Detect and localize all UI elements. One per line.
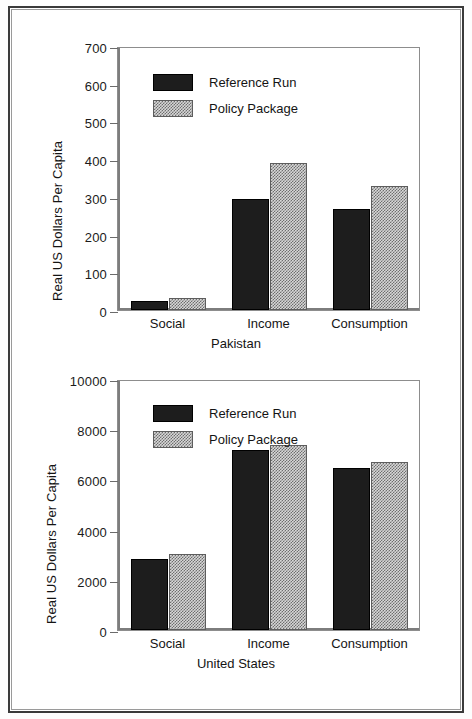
x-label-pakistan-social: Social — [150, 316, 185, 331]
x-axis-category-labels-pakistan: SocialIncomeConsumption — [117, 316, 420, 336]
bar-united-states-income-policy-package — [270, 445, 307, 630]
bar-pakistan-consumption-reference-run — [333, 209, 370, 310]
y-tick-pakistan — [110, 237, 118, 238]
x-label-pakistan-consumption: Consumption — [331, 316, 408, 331]
y-axis-title-pakistan: Real US Dollars Per Capita — [50, 141, 65, 301]
legend-label-reference-run: Reference Run — [209, 406, 296, 421]
bar-pakistan-social-policy-package — [169, 298, 206, 310]
bar-pakistan-social-reference-run — [131, 301, 168, 310]
bar-united-states-social-reference-run — [131, 559, 168, 630]
legend-united-states: Reference Run Policy Package — [153, 400, 298, 452]
y-tick-label-pakistan: 100 — [85, 267, 107, 282]
legend-item-reference-run: Reference Run — [153, 69, 298, 95]
y-tick-united-states — [110, 481, 118, 482]
legend-swatch-reference-run — [153, 74, 193, 91]
y-tick-label-united-states: 2000 — [77, 574, 107, 589]
y-tick-label-pakistan: 700 — [85, 41, 107, 56]
x-axis-title-united-states: United States — [0, 656, 472, 671]
legend-label-policy-package: Policy Package — [209, 432, 298, 447]
legend-pakistan: Reference Run Policy Package — [153, 69, 298, 121]
legend-swatch-reference-run — [153, 405, 193, 422]
y-axis-title-united-states: Real US Dollars Per Capita — [44, 464, 59, 624]
legend-label-reference-run: Reference Run — [209, 75, 296, 90]
y-tick-label-pakistan: 0 — [100, 305, 107, 320]
legend-item-policy-package: Policy Package — [153, 426, 298, 452]
bar-pakistan-income-reference-run — [232, 199, 269, 310]
y-axis-line-united-states — [118, 381, 120, 630]
bar-pakistan-consumption-policy-package — [371, 186, 408, 310]
x-label-united-states-income: Income — [247, 636, 290, 651]
x-label-united-states-social: Social — [150, 636, 185, 651]
bar-united-states-income-reference-run — [232, 450, 269, 630]
bar-pakistan-income-policy-package — [270, 163, 307, 310]
y-tick-pakistan — [110, 48, 118, 49]
chart-pakistan: Real US Dollars Per Capita 0100200300400… — [0, 14, 472, 359]
y-tick-label-pakistan: 500 — [85, 116, 107, 131]
x-label-pakistan-income: Income — [247, 316, 290, 331]
y-tick-label-united-states: 6000 — [77, 474, 107, 489]
y-tick-label-united-states: 10000 — [70, 374, 107, 389]
y-tick-pakistan — [110, 86, 118, 87]
chart-united-states: Real US Dollars Per Capita 0200040006000… — [0, 362, 472, 707]
bar-united-states-consumption-reference-run — [333, 468, 370, 630]
y-tick-label-pakistan: 400 — [85, 154, 107, 169]
y-tick-pakistan — [110, 312, 118, 313]
y-tick-label-pakistan: 600 — [85, 78, 107, 93]
y-tick-label-pakistan: 200 — [85, 229, 107, 244]
y-tick-united-states — [110, 632, 118, 633]
y-tick-pakistan — [110, 161, 118, 162]
y-tick-united-states — [110, 381, 118, 382]
legend-swatch-policy-package — [153, 431, 193, 448]
x-axis-title-pakistan: Pakistan — [0, 336, 472, 351]
scanned-figure-page: Real US Dollars Per Capita 0100200300400… — [0, 0, 472, 719]
y-tick-label-united-states: 0 — [100, 625, 107, 640]
x-axis-category-labels-united-states: SocialIncomeConsumption — [117, 636, 420, 656]
y-tick-pakistan — [110, 274, 118, 275]
y-tick-label-united-states: 8000 — [77, 424, 107, 439]
y-tick-united-states — [110, 431, 118, 432]
legend-swatch-policy-package — [153, 100, 193, 117]
y-tick-label-united-states: 4000 — [77, 524, 107, 539]
y-tick-label-pakistan: 300 — [85, 191, 107, 206]
y-tick-pakistan — [110, 123, 118, 124]
y-axis-line-pakistan — [118, 48, 120, 310]
legend-item-reference-run: Reference Run — [153, 400, 298, 426]
legend-label-policy-package: Policy Package — [209, 101, 298, 116]
bar-united-states-consumption-policy-package — [371, 462, 408, 630]
bar-united-states-social-policy-package — [169, 554, 206, 630]
x-label-united-states-consumption: Consumption — [331, 636, 408, 651]
y-tick-united-states — [110, 582, 118, 583]
y-tick-pakistan — [110, 199, 118, 200]
legend-item-policy-package: Policy Package — [153, 95, 298, 121]
y-tick-united-states — [110, 532, 118, 533]
